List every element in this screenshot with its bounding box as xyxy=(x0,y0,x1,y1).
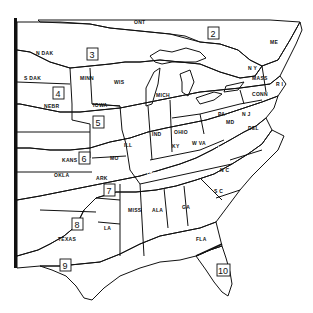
state-label-va: VA xyxy=(218,145,225,151)
state-label-ark: ARK xyxy=(96,175,108,181)
state-label-sdak: S DAK xyxy=(24,75,41,81)
zone-label-9: 9 xyxy=(60,259,71,271)
state-label-conn: CONN xyxy=(252,91,268,97)
zone-label-2: 2 xyxy=(208,27,219,39)
state-label-mich: MICH xyxy=(156,92,170,98)
state-label-nebr: NEBR xyxy=(44,103,59,109)
state-label-minn: MINN xyxy=(80,75,94,81)
state-label-tenn: TENN xyxy=(146,171,161,177)
state-label-ky: KY xyxy=(172,143,180,149)
state-label-pa: PA xyxy=(218,111,225,117)
state-label-sc: S C xyxy=(214,188,223,194)
svg-text:9: 9 xyxy=(63,261,68,271)
state-label-texas: TEXAS xyxy=(58,236,77,242)
state-label-wis: WIS xyxy=(114,79,125,85)
svg-text:3: 3 xyxy=(90,50,95,60)
svg-text:7: 7 xyxy=(107,186,112,196)
state-label-mo: MO xyxy=(110,155,119,161)
state-label-ri: R I xyxy=(276,81,284,87)
state-label-fla: FLA xyxy=(196,236,207,242)
state-label-okla: OKLA xyxy=(54,172,69,178)
state-label-me: ME xyxy=(270,39,278,45)
hardiness-zone-map: 2 3 4 5 6 7 8 9 10 ONT N DAK S DAK MINN … xyxy=(0,0,313,313)
svg-text:2: 2 xyxy=(211,29,216,39)
svg-text:10: 10 xyxy=(218,266,228,276)
state-label-ill: ILL xyxy=(124,142,132,148)
state-label-iowa: IOWA xyxy=(93,102,108,108)
state-label-ga: GA xyxy=(182,204,190,210)
zone-2-region xyxy=(38,20,300,66)
florida-zone-boundary xyxy=(196,244,222,256)
zone-label-3: 3 xyxy=(87,48,98,60)
state-label-mass: MASS xyxy=(252,75,268,81)
svg-text:5: 5 xyxy=(96,118,101,128)
state-label-ny: N Y xyxy=(248,65,258,71)
zone-3-region xyxy=(17,22,262,78)
svg-text:4: 4 xyxy=(56,89,61,99)
svg-text:8: 8 xyxy=(75,220,80,230)
state-label-kans: KANS xyxy=(62,157,78,163)
state-label-ind: IND xyxy=(152,131,162,137)
state-label-la: LA xyxy=(104,225,111,231)
zone-8-region xyxy=(17,130,284,268)
state-label-ont: ONT xyxy=(134,19,145,25)
state-label-md: MD xyxy=(226,119,234,125)
state-label-miss: MISS xyxy=(128,207,142,213)
state-label-ndak: N DAK xyxy=(36,50,53,56)
zone-label-5: 5 xyxy=(93,116,104,128)
zone-label-7: 7 xyxy=(104,184,115,196)
zone-label-10: 10 xyxy=(217,264,230,276)
zone-label-4: 4 xyxy=(53,87,64,99)
state-label-nj: N J xyxy=(242,111,251,117)
state-label-ohio: OHIO xyxy=(174,129,188,135)
zone-7-region xyxy=(17,118,272,256)
svg-text:6: 6 xyxy=(82,154,87,164)
zone-label-8: 8 xyxy=(72,218,83,230)
state-label-nc: N C xyxy=(220,167,230,173)
state-label-wva: W VA xyxy=(192,140,206,146)
state-label-del: DEL xyxy=(248,125,259,131)
state-label-ala: ALA xyxy=(152,207,163,213)
zone-label-6: 6 xyxy=(79,152,90,164)
